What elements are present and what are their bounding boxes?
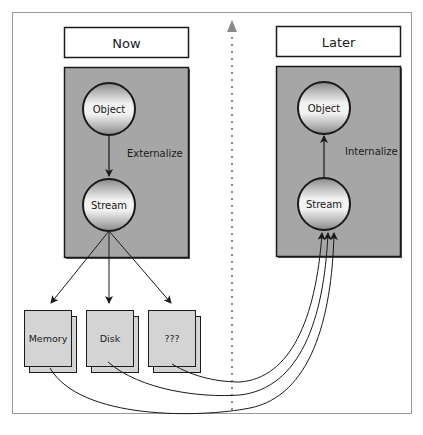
storage-unknown-label: ??? <box>164 333 179 344</box>
storage-unknown: ??? <box>149 311 201 373</box>
now-title: Now <box>112 36 141 51</box>
storage-disk-label: Disk <box>100 333 121 344</box>
storage-memory-label: Memory <box>29 333 68 344</box>
later-object-node: Object <box>298 82 350 134</box>
later-object-label: Object <box>308 103 341 114</box>
storage-disk: Disk <box>87 311 139 373</box>
later-stream-label: Stream <box>306 199 342 210</box>
externalize-label: Externalize <box>127 148 183 159</box>
later-stream-node: Stream <box>298 178 350 230</box>
storage-memory: Memory <box>25 311 77 373</box>
now-object-label: Object <box>93 104 126 115</box>
now-stream-node: Stream <box>83 179 135 231</box>
now-object-node: Object <box>83 83 135 135</box>
later-title: Later <box>322 35 356 50</box>
internalize-label: Internalize <box>345 146 398 157</box>
diagram: Now Object Externalize Stream Memory Dis… <box>0 0 423 435</box>
now-stream-label: Stream <box>91 200 127 211</box>
